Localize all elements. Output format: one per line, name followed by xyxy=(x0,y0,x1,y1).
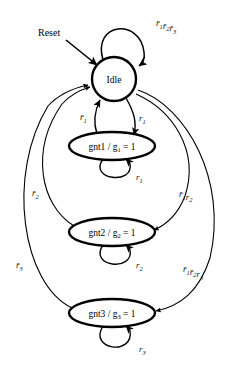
edge-label-gnt3-self: r3 xyxy=(139,344,147,356)
state-node-idle[interactable]: Idle xyxy=(92,57,136,101)
state-label-gnt1-eq: = 1 xyxy=(121,142,136,152)
edge-label-idle-self: r̄1r̄2r̄3 xyxy=(156,18,177,35)
edge-label-gnt1-to-idle-text: r̄1 xyxy=(80,112,87,124)
state-label-idle: Idle xyxy=(107,75,122,85)
edge-label-gnt3-self-text: r3 xyxy=(139,344,147,356)
edge-label-idle-to-gnt3: r̄1r̄2r3 xyxy=(183,264,204,281)
edge-label-gnt2-to-idle-text: r̄2 xyxy=(32,188,40,200)
state-node-gnt2[interactable]: gnt2 / g2 = 1 xyxy=(69,218,155,246)
state-label-gnt2: gnt2 / g2 = 1 xyxy=(88,228,135,240)
state-label-gnt1-name: gnt1 / g xyxy=(88,142,117,152)
transition-gnt2-self xyxy=(100,245,130,264)
transition-gnt1-idle xyxy=(95,100,100,134)
state-node-gnt3[interactable]: gnt3 / g3 = 1 xyxy=(69,299,155,327)
edge-label-gnt3-to-idle-text: r̄3 xyxy=(16,260,24,272)
transition-idle-gnt2 xyxy=(136,94,189,230)
transition-gnt1-self xyxy=(100,159,130,177)
state-label-gnt2-eq: = 1 xyxy=(121,228,136,238)
edge-label-idle-to-gnt2: r̄1r2 xyxy=(179,189,193,203)
edge-label-idle-to-gnt3-text: r̄1r̄2r3 xyxy=(183,264,204,281)
edge-label-gnt2-self-text: r2 xyxy=(136,260,144,272)
state-node-gnt1[interactable]: gnt1 / g1 = 1 xyxy=(69,132,155,160)
edge-label-idle-self-text: r̄1r̄2r̄3 xyxy=(156,18,177,35)
edge-label-idle-to-gnt2-text: r̄1r2 xyxy=(179,189,193,203)
transition-gnt3-self xyxy=(100,326,130,347)
edge-label-gnt1-self-text: r1 xyxy=(136,172,143,184)
edge-label-gnt1-to-idle: r̄1 xyxy=(80,112,87,124)
edge-label-gnt1-self: r1 xyxy=(136,172,143,184)
edge-label-gnt3-to-idle: r̄3 xyxy=(16,260,24,272)
transition-idle-gnt1 xyxy=(126,98,135,135)
state-machine-diagram: Idle gnt1 / g1 = 1 gnt2 / g2 = 1 gnt3 / … xyxy=(0,0,244,384)
state-label-gnt3-name: gnt3 / g xyxy=(88,309,117,319)
edge-label-idle-to-gnt1: r1 xyxy=(139,113,146,125)
edge-label-idle-to-gnt1-text: r1 xyxy=(139,113,146,125)
edge-label-gnt2-to-idle: r̄2 xyxy=(32,188,40,200)
state-label-gnt1: gnt1 / g1 = 1 xyxy=(88,142,135,154)
transition-reset-entry xyxy=(66,40,97,65)
edge-label-gnt2-self: r2 xyxy=(136,260,144,272)
state-label-gnt2-name: gnt2 / g xyxy=(88,228,117,238)
edge-label-reset: Reset xyxy=(38,27,60,38)
state-label-gnt3-eq: = 1 xyxy=(121,309,136,319)
state-label-gnt3: gnt3 / g3 = 1 xyxy=(88,309,135,321)
